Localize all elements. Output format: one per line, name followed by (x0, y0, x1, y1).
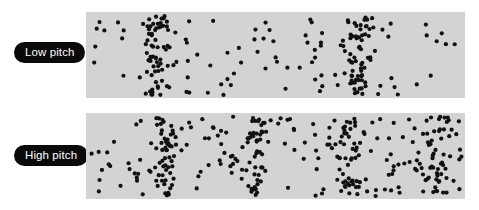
particle-dot (174, 60, 178, 64)
particle-dot (154, 80, 158, 84)
particle-dot (121, 74, 125, 78)
particle-dot (447, 134, 451, 138)
particle-dot (261, 121, 265, 125)
particle-dot (353, 124, 357, 128)
particle-dot (355, 146, 359, 150)
high-pitch-particle-panel (86, 113, 465, 199)
particle-dot (259, 165, 263, 169)
particle-dot (153, 38, 157, 42)
particle-dot (171, 63, 175, 67)
particle-dot (159, 16, 163, 20)
particle-dot (158, 62, 162, 66)
particle-dot (304, 33, 308, 37)
particle-dot (401, 135, 405, 139)
particle-dot (263, 21, 267, 25)
particle-dot (105, 150, 109, 154)
particle-dot (138, 75, 142, 79)
particle-dot (313, 133, 317, 137)
particle-dot (164, 48, 168, 52)
particle-dot (145, 51, 149, 55)
particle-dot (327, 136, 331, 140)
particle-dot (250, 119, 254, 123)
particle-dot (350, 74, 354, 78)
particle-dot (391, 168, 395, 172)
low-pitch-label-badge: Low pitch (14, 42, 85, 63)
particle-dot (362, 130, 366, 134)
particle-dot (327, 126, 331, 130)
particle-dot (163, 178, 167, 182)
particle-dot (345, 132, 349, 136)
particle-dot (346, 181, 350, 185)
particle-dot (370, 16, 374, 20)
particle-dot (310, 60, 314, 64)
particle-dot (425, 33, 429, 37)
particle-dot (408, 160, 412, 164)
particle-dot (218, 158, 222, 162)
particle-dot (158, 161, 162, 165)
particle-dot (352, 55, 356, 59)
particle-dot (216, 134, 220, 138)
particle-dot (195, 53, 199, 57)
particle-dot (369, 149, 373, 153)
particle-dot (425, 132, 429, 136)
particle-dot (444, 190, 448, 194)
particle-dot (373, 49, 377, 53)
particle-dot (206, 163, 210, 167)
particle-dot (437, 129, 441, 133)
particle-dot (167, 155, 171, 159)
particle-dot (340, 134, 344, 138)
particle-dot (457, 187, 461, 191)
particle-dot (283, 142, 287, 146)
particle-dot (437, 180, 441, 184)
particle-dot (196, 174, 200, 178)
particle-dot (246, 184, 250, 188)
particle-dot (355, 90, 359, 94)
particle-dot (313, 48, 317, 52)
particle-dot (135, 179, 139, 183)
particle-dot (385, 158, 389, 162)
particle-dot (435, 171, 439, 175)
particle-dot (415, 82, 419, 86)
particle-dot (448, 154, 452, 158)
particle-dot (348, 121, 352, 125)
particle-dot (165, 44, 169, 48)
particle-dot (346, 163, 350, 167)
particle-dot (421, 132, 425, 136)
particle-dot (97, 20, 101, 24)
particle-dot (333, 142, 337, 146)
particle-dot (239, 60, 243, 64)
particle-dot (263, 66, 267, 70)
particle-dot (144, 42, 148, 46)
particle-dot (169, 124, 173, 128)
particle-dot (253, 27, 257, 31)
particle-dot (267, 28, 271, 32)
particle-dot (235, 159, 239, 163)
particle-dot (429, 74, 433, 78)
particle-dot (358, 27, 362, 31)
particle-dot (386, 35, 390, 39)
particle-dot (145, 38, 149, 42)
particle-dot (351, 179, 355, 183)
particle-dot (343, 185, 347, 189)
particle-dot (206, 91, 210, 95)
particle-dot (389, 76, 393, 80)
particle-dot (187, 120, 191, 124)
particle-dot (315, 167, 319, 171)
particle-dot (166, 28, 170, 32)
particle-dot (443, 167, 447, 171)
particle-dot (225, 77, 229, 81)
particle-dot (237, 46, 241, 50)
particle-dot (444, 176, 448, 180)
particle-dot (179, 148, 183, 152)
particle-dot (207, 136, 211, 140)
particle-dot (302, 157, 306, 161)
particle-dot (165, 142, 169, 146)
particle-dot (313, 56, 317, 60)
particle-dot (211, 125, 215, 129)
particle-dot (208, 63, 212, 67)
particle-dot (370, 120, 374, 124)
particle-dot (357, 35, 361, 39)
particle-dot (439, 162, 443, 166)
particle-dot (348, 52, 352, 56)
particle-dot (350, 61, 354, 65)
